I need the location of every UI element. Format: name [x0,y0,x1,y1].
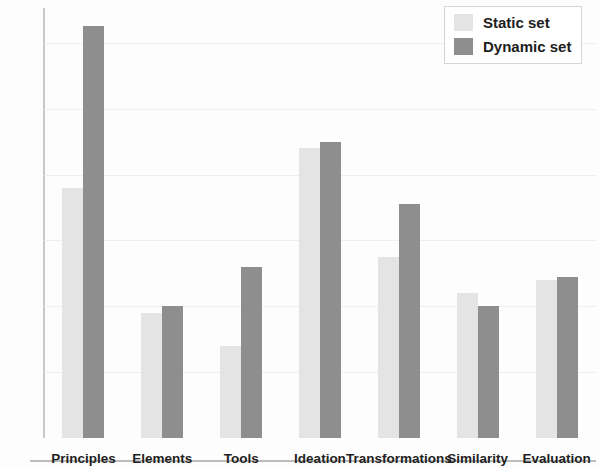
x-axis-category-label: Similarity [447,451,508,466]
bar-group [378,204,420,438]
legend-label: Static set [483,14,550,31]
x-axis-category-label: Transformations [346,451,452,466]
legend-swatch-icon [454,14,473,31]
bar [141,313,162,438]
bar-group [62,26,104,438]
gridline [44,109,596,110]
bar [83,26,104,438]
bar [457,293,478,438]
bar [557,277,578,438]
x-axis-category-label: Elements [132,451,192,466]
bar [536,280,557,438]
bar [378,257,399,438]
legend-item[interactable]: Dynamic set [454,38,571,55]
bar [320,142,341,438]
legend-item[interactable]: Static set [454,14,571,31]
x-axis-category-label: Ideation [294,451,346,466]
x-axis-category-label: Evaluation [522,451,590,466]
legend-label: Dynamic set [483,38,571,55]
bar-group [299,142,341,438]
bar [399,204,420,438]
bar [62,188,83,438]
bar-group [457,293,499,438]
bar [162,306,183,438]
bar-group [536,277,578,438]
x-axis-category-label: Principles [51,451,116,466]
bar-chart: 020406080100120 PrinciplesElementsToolsI… [0,0,599,467]
bar [220,346,241,438]
legend-swatch-icon [454,38,473,55]
plot-area: 020406080100120 PrinciplesElementsToolsI… [44,10,596,438]
bar [478,306,499,438]
bar-group [141,306,183,438]
bar-group [220,267,262,438]
legend: Static setDynamic set [444,6,582,64]
x-axis-category-label: Tools [224,451,259,466]
bar [241,267,262,438]
bar [299,148,320,438]
